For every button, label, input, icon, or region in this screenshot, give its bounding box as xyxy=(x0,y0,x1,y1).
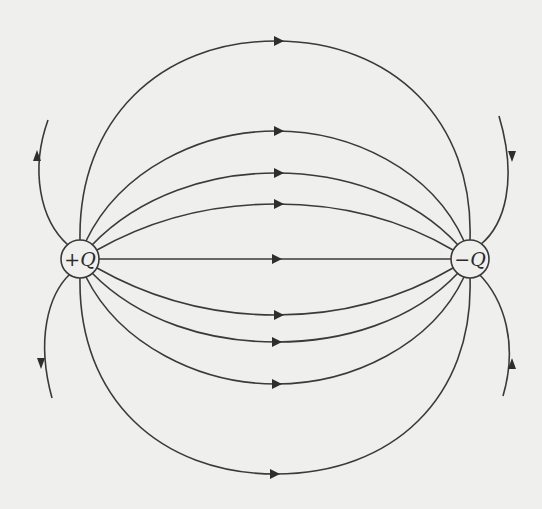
field-line-lower-4 xyxy=(97,268,453,315)
arrow-right-icon xyxy=(274,168,284,178)
arrow-right-icon xyxy=(274,126,284,136)
field-line-top-outer xyxy=(80,41,470,240)
arrow-right-icon xyxy=(272,337,282,347)
arrow-right-icon xyxy=(272,379,282,389)
field-line-upper-3 xyxy=(92,173,458,245)
field-line-bottom-outer xyxy=(80,278,470,474)
arrow-right-icon xyxy=(270,469,280,479)
field-line-right-upper xyxy=(480,116,508,245)
arrow-down-icon xyxy=(37,358,45,369)
field-line-left-lower xyxy=(45,274,70,398)
field-line-left-upper xyxy=(39,120,68,245)
arrow-right-icon xyxy=(274,310,284,320)
arrow-right-icon xyxy=(274,36,284,46)
field-line-lower-3 xyxy=(92,273,458,342)
charge-symbol: Q xyxy=(470,248,486,270)
field-line-upper-4 xyxy=(97,204,453,250)
arrow-down-icon xyxy=(508,151,516,162)
field-line-right-lower xyxy=(478,273,509,396)
positive-sign: + xyxy=(64,248,80,270)
dipole-diagram: +Q −Q xyxy=(0,0,542,509)
charge-symbol: Q xyxy=(80,248,96,270)
field-line-upper-2 xyxy=(86,131,464,241)
negative-sign: − xyxy=(454,248,470,270)
positive-charge-label: +Q xyxy=(64,248,96,270)
field-line-lower-2 xyxy=(86,277,464,384)
arrow-right-icon xyxy=(274,199,284,209)
negative-charge-label: −Q xyxy=(454,248,486,270)
arrow-right-icon xyxy=(272,254,282,264)
